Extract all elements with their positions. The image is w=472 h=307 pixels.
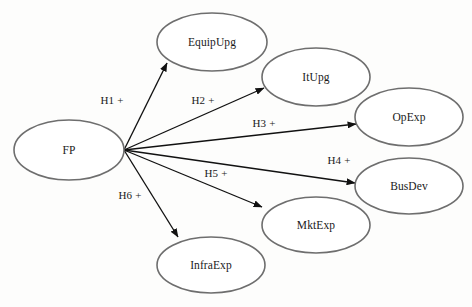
path-arrow-h5[interactable] <box>124 150 262 207</box>
node-label-equipupg: EquipUpg <box>188 36 236 49</box>
path-label-h1: H1 + <box>100 94 123 106</box>
path-label-h3: H3 + <box>252 117 275 129</box>
path-label-h5: H5 + <box>204 167 227 179</box>
path-diagram-container: FP EquipUpg ItUpg OpExp BusDev MktExp In… <box>0 0 472 307</box>
path-arrow-h1[interactable] <box>124 63 167 150</box>
node-label-fp: FP <box>63 144 76 156</box>
path-arrow-h3[interactable] <box>124 124 356 150</box>
path-label-h6: H6 + <box>118 189 141 201</box>
node-label-itupg: ItUpg <box>302 71 329 84</box>
node-label-infraexp: InfraExp <box>190 259 232 272</box>
nodes-group <box>14 13 463 293</box>
path-label-h2: H2 + <box>191 94 214 106</box>
node-label-mktexp: MktExp <box>297 219 335 232</box>
path-label-h4: H4 + <box>327 154 350 166</box>
path-labels-group: H1 + H2 + H3 + H4 + H5 + H6 + <box>100 94 350 201</box>
diagram-canvas: FP EquipUpg ItUpg OpExp BusDev MktExp In… <box>0 0 472 307</box>
path-arrow-h4[interactable] <box>124 150 355 183</box>
node-label-busdev: BusDev <box>390 180 428 192</box>
node-label-opexp: OpExp <box>392 111 425 124</box>
